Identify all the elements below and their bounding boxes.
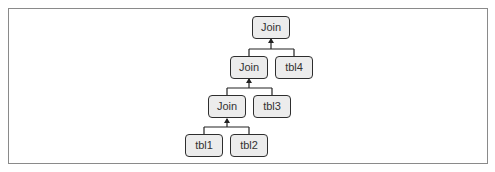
- node-join-level2: Join: [208, 95, 246, 118]
- node-label: Join: [261, 21, 281, 33]
- node-label: tbl4: [285, 61, 303, 73]
- node-label: tbl3: [263, 100, 281, 112]
- node-tbl1: tbl1: [185, 134, 223, 157]
- node-tbl2: tbl2: [230, 134, 268, 157]
- node-join-root: Join: [252, 16, 290, 39]
- node-tbl3: tbl3: [253, 95, 291, 118]
- node-join-level1: Join: [230, 56, 268, 79]
- node-tbl4: tbl4: [275, 56, 313, 79]
- node-label: Join: [217, 100, 237, 112]
- node-label: Join: [239, 61, 259, 73]
- node-label: tbl1: [195, 139, 213, 151]
- node-label: tbl2: [240, 139, 258, 151]
